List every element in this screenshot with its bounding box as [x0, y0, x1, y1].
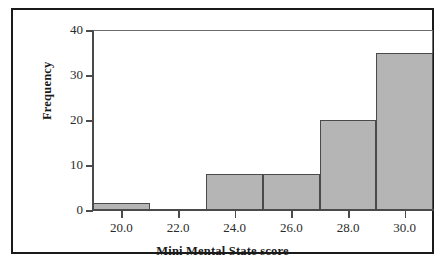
y-axis-tick-label: 10	[70, 157, 83, 173]
y-axis-tick-label: 0	[77, 202, 84, 218]
y-axis-tick-label: 20	[70, 112, 83, 128]
x-axis-tick-label: 20.0	[110, 220, 133, 236]
y-axis-tick-label: 40	[70, 22, 83, 38]
x-axis-tick-label: 22.0	[167, 220, 190, 236]
page-bleed-text	[6, 0, 306, 5]
x-axis-tick	[405, 211, 407, 218]
y-axis-tick	[86, 210, 93, 212]
figure-container: 01020304020.022.024.026.028.030.0 Freque…	[0, 0, 446, 266]
x-axis-tick-label: 26.0	[280, 220, 303, 236]
y-axis-tick	[86, 75, 93, 77]
y-axis-tick	[86, 165, 93, 167]
x-axis-tick-label: 24.0	[223, 220, 246, 236]
x-axis-tick-label: 28.0	[337, 220, 360, 236]
histogram-bar	[263, 174, 320, 210]
y-axis-title: Frequency	[40, 61, 55, 120]
x-axis-tick	[178, 211, 180, 218]
x-axis-tick	[121, 211, 123, 218]
histogram-bar	[320, 120, 377, 210]
x-axis-tick	[235, 211, 237, 218]
x-axis-tick	[348, 211, 350, 218]
histogram-bar	[206, 174, 263, 210]
x-axis-tick-label: 30.0	[393, 220, 416, 236]
y-axis-tick	[86, 120, 93, 122]
y-axis-tick	[86, 30, 93, 32]
figure-frame: 01020304020.022.024.026.028.030.0 Freque…	[11, 8, 434, 254]
plot-area: 01020304020.022.024.026.028.030.0	[93, 30, 433, 210]
x-axis-title: Mini Mental State score	[13, 244, 432, 259]
y-axis-tick-label: 30	[70, 67, 83, 83]
histogram-bar	[376, 53, 433, 211]
x-axis-tick	[291, 211, 293, 218]
histogram-bar	[93, 203, 150, 210]
